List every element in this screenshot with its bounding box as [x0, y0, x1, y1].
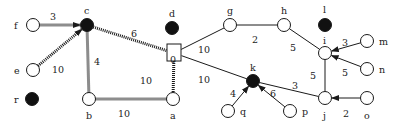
- edge-weight-i-j: 5: [310, 70, 316, 81]
- node-j[interactable]: [319, 92, 332, 105]
- node-p[interactable]: [284, 105, 297, 118]
- node-g[interactable]: [224, 19, 237, 32]
- node-label-j: j: [322, 110, 326, 121]
- edge-j-k: [259, 82, 318, 96]
- edge-weight-h-i: 5: [290, 42, 296, 53]
- node-l[interactable]: [319, 19, 332, 32]
- edge-weight-0-a: 10: [140, 75, 152, 86]
- node-i[interactable]: [319, 47, 332, 60]
- edge-0-a: [173, 61, 174, 93]
- edge-weight-e-c: 10: [52, 64, 64, 75]
- nodes-layer: [26, 19, 374, 118]
- edge-weight-p-k: 6: [270, 88, 276, 99]
- edge-weight-b-a: 10: [118, 108, 130, 119]
- edge-weight-m-i: 3: [342, 37, 348, 48]
- edge-weight-o-j: 2: [343, 108, 349, 119]
- node-label-h: h: [281, 5, 287, 16]
- node-label-g: g: [227, 5, 233, 16]
- node-label-l: l: [323, 4, 326, 15]
- edge-0-k: [182, 56, 247, 79]
- node-label-d: d: [169, 8, 175, 19]
- node-label-0: 0: [170, 54, 176, 65]
- node-k[interactable]: [247, 75, 260, 88]
- edge-weight-j-k: 3: [292, 80, 298, 91]
- edge-weight-n-i: 5: [342, 67, 348, 78]
- node-label-o: o: [364, 110, 370, 121]
- node-label-n: n: [379, 64, 385, 75]
- edge-weight-g-h: 2: [252, 34, 258, 45]
- edge-c-b: [87, 31, 89, 92]
- node-b[interactable]: [83, 93, 96, 106]
- edge-n-i: [332, 55, 361, 66]
- node-a[interactable]: [167, 93, 180, 106]
- node-label-e: e: [14, 65, 20, 76]
- node-d[interactable]: [166, 22, 179, 35]
- node-label-i: i: [323, 35, 326, 46]
- edge-weight-0-g: 10: [198, 44, 210, 55]
- node-n[interactable]: [361, 63, 374, 76]
- edge-weight-c-0: 6: [131, 28, 137, 39]
- node-label-m: m: [379, 36, 388, 47]
- node-label-f: f: [14, 20, 19, 31]
- edge-weight-f-c: 3: [50, 11, 56, 22]
- node-m[interactable]: [361, 35, 374, 48]
- node-label-r: r: [14, 94, 19, 105]
- node-h[interactable]: [278, 19, 291, 32]
- node-label-p: p: [302, 106, 308, 117]
- edge-e-c: [38, 29, 82, 65]
- node-r[interactable]: [26, 93, 39, 106]
- node-label-b: b: [86, 110, 92, 121]
- node-label-q: q: [240, 106, 246, 117]
- graph-diagram: 3106410101010255353462fcerba0dghlimnkqpj…: [0, 0, 401, 128]
- edge-c-0: [93, 27, 166, 51]
- node-o[interactable]: [361, 92, 374, 105]
- edge-weight-0-k: 10: [198, 74, 210, 85]
- node-label-a: a: [170, 110, 176, 121]
- node-f[interactable]: [27, 19, 40, 32]
- node-c[interactable]: [81, 19, 94, 32]
- edge-weight-q-k: 4: [230, 88, 236, 99]
- node-q[interactable]: [222, 105, 235, 118]
- node-e[interactable]: [27, 64, 40, 77]
- node-label-k: k: [250, 62, 256, 73]
- edge-weight-c-b: 4: [94, 56, 100, 67]
- node-label-c: c: [84, 5, 89, 16]
